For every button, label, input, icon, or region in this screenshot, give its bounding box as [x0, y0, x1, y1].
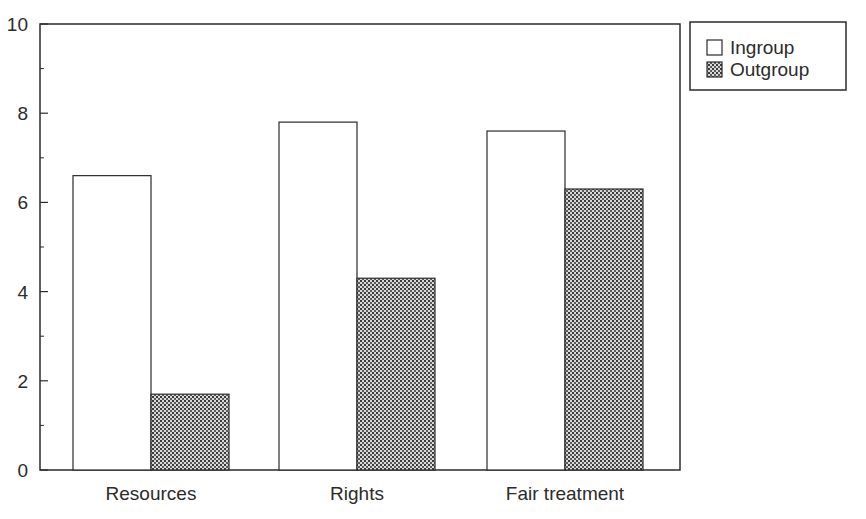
legend-swatch-ingroup [707, 40, 722, 55]
y-tick-label: 8 [17, 103, 28, 124]
y-tick-label: 10 [7, 14, 28, 35]
y-tick-label: 4 [17, 282, 28, 303]
y-tick-label: 2 [17, 371, 28, 392]
y-tick-label: 6 [17, 192, 28, 213]
bar-outgroup-rights [357, 278, 435, 470]
bar-chart: 0246810 ResourcesRightsFair treatment In… [0, 0, 866, 519]
y-tick-label: 0 [17, 460, 28, 481]
x-category-label: Fair treatment [506, 483, 625, 504]
bars-group [73, 122, 643, 470]
legend-label-outgroup: Outgroup [730, 59, 809, 80]
legend-swatch-outgroup [707, 62, 722, 77]
x-category-label: Resources [106, 483, 197, 504]
bar-ingroup-rights [279, 122, 357, 470]
x-category-label: Rights [330, 483, 384, 504]
bar-outgroup-fair-treatment [565, 189, 643, 470]
legend: Ingroup Outgroup [690, 22, 846, 90]
legend-label-ingroup: Ingroup [730, 37, 794, 58]
bar-ingroup-fair-treatment [487, 131, 565, 470]
x-axis-labels: ResourcesRightsFair treatment [106, 483, 625, 504]
bar-ingroup-resources [73, 176, 151, 470]
bar-outgroup-resources [151, 394, 229, 470]
y-axis: 0246810 [7, 14, 48, 481]
